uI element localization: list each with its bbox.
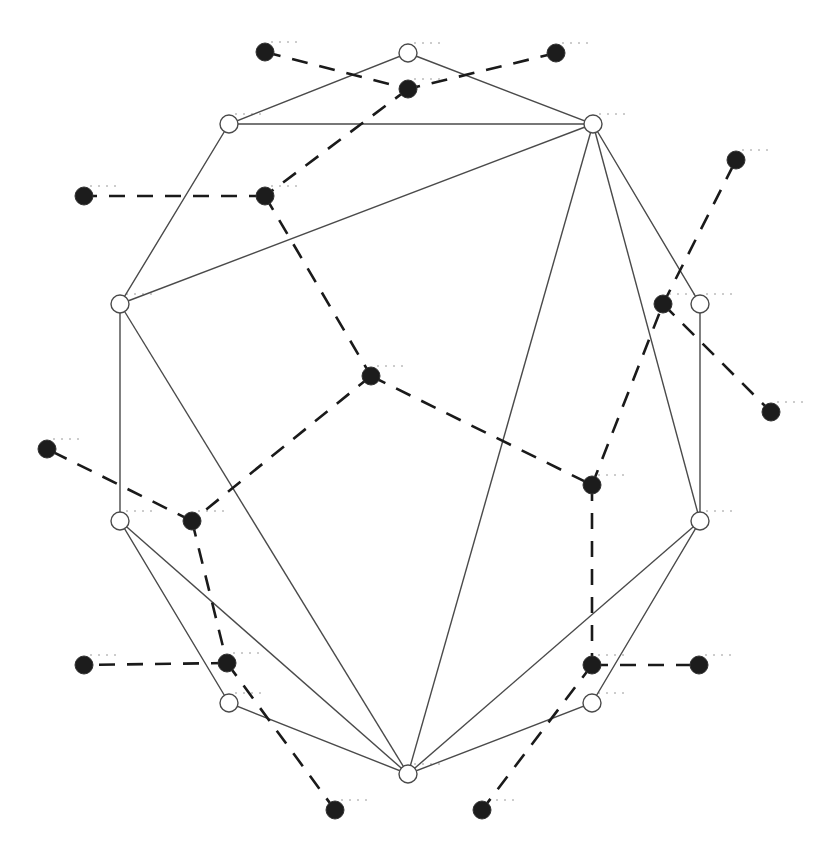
dual-edge-d-c	[592, 304, 663, 485]
triangulation-diagonals	[120, 124, 700, 774]
dual-node-l2	[38, 440, 56, 458]
polygon-outline	[120, 53, 700, 774]
dual-tree-edges	[47, 52, 771, 810]
polygon-boundary	[120, 53, 700, 774]
polygon-vertices	[111, 44, 709, 783]
dual-edge-e-f	[192, 521, 227, 663]
dual-node-b	[256, 187, 274, 205]
polygon-vertex-v6	[220, 694, 238, 712]
dual-edge-g-b2	[482, 665, 592, 810]
polygon-vertex-v8	[111, 295, 129, 313]
dual-node-r1	[727, 151, 745, 169]
dual-node-r3	[690, 656, 708, 674]
dual-edge-t1-a	[265, 52, 408, 89]
polygon-vertex-v2	[691, 295, 709, 313]
dual-node-d	[583, 476, 601, 494]
dual-edge-f-b1	[227, 663, 335, 810]
dual-node-a	[399, 80, 417, 98]
dual-node-m	[362, 367, 380, 385]
dual-edge-c-r1	[663, 160, 736, 304]
polygon-vertex-v7	[111, 512, 129, 530]
dual-edge-a-b	[265, 89, 408, 196]
dual-node-b2	[473, 801, 491, 819]
diagonal-v1-v3	[593, 124, 700, 521]
dual-node-l3	[75, 656, 93, 674]
polygon-vertex-v1	[584, 115, 602, 133]
dual-node-t1	[256, 43, 274, 61]
dual-node-t2	[547, 44, 565, 62]
dual-node-c	[654, 295, 672, 313]
polygon-vertex-v0	[399, 44, 417, 62]
dual-edge-m-e	[192, 376, 371, 521]
dual-edge-m-d	[371, 376, 592, 485]
dual-tree-nodes	[38, 43, 780, 819]
dual-node-f	[218, 654, 236, 672]
label-tick-marks	[53, 42, 805, 800]
diagonal-v3-v5	[408, 521, 700, 774]
dual-edge-b-m	[265, 196, 371, 376]
polygon-vertex-v9	[220, 115, 238, 133]
polygon-vertex-v3	[691, 512, 709, 530]
diagonal-v8-v1	[120, 124, 593, 304]
dual-node-b1	[326, 801, 344, 819]
dual-edge-c-r2	[663, 304, 771, 412]
polygon-vertex-v5	[399, 765, 417, 783]
triangulation-diagram	[0, 0, 822, 858]
polygon-vertex-v4	[583, 694, 601, 712]
dual-node-l1	[75, 187, 93, 205]
diagonal-v1-v5	[408, 124, 593, 774]
dual-node-g	[583, 656, 601, 674]
dual-edge-t2-a	[408, 53, 556, 89]
dual-node-r2	[762, 403, 780, 421]
diagonal-v7-v5	[120, 521, 408, 774]
dual-node-e	[183, 512, 201, 530]
